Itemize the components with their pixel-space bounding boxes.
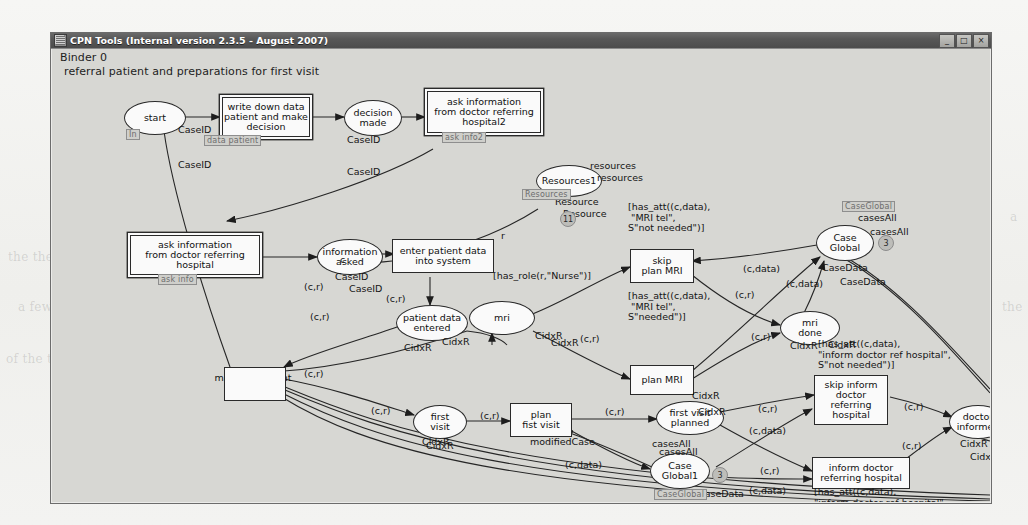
transition-label: ask information from doctor referring ho…	[145, 240, 245, 270]
place-mri[interactable]: mri	[469, 301, 535, 335]
place-label: patient data entered	[403, 313, 461, 332]
guard-skip-plan-mri: [has_att((c,data), "MRI tel", S"not need…	[628, 202, 710, 234]
arc-inscription: CaseData	[705, 501, 751, 502]
guard-plan-mri: [has_att((c,data), "MRI tel", S"needed")…	[628, 291, 710, 323]
place-label: Resources1	[542, 176, 597, 186]
place-label: Case Global1	[662, 461, 698, 480]
transition-label: ask information from doctor referring ho…	[434, 97, 534, 127]
place-label: mri done	[798, 318, 822, 337]
transition-inform-doctor[interactable]: inform doctor referring hospital	[812, 457, 910, 489]
transition-tag-data-patient[interactable]: data patient	[204, 135, 261, 146]
place-information-asked[interactable]: information asked	[317, 239, 383, 275]
place-label: first visit	[430, 412, 450, 431]
cpn-app-icon	[54, 34, 67, 47]
minimize-button[interactable]: _	[939, 34, 955, 48]
place-label: Case Global	[830, 233, 860, 252]
place-decision-made[interactable]: decision made	[344, 100, 402, 136]
arc-inscription: CaseID	[349, 284, 382, 295]
fusion-tag-resources[interactable]: Resources	[522, 189, 571, 200]
maximize-button[interactable]: □	[956, 34, 972, 48]
place-label: information asked	[323, 247, 378, 266]
arc-inscription: CaseID	[178, 160, 211, 171]
cpn-tools-window: CPN Tools (Internal version 2.3.5 - Augu…	[50, 32, 992, 504]
transition-write-down-data-patient[interactable]: write down data patient and make decisio…	[222, 97, 310, 137]
close-icon: ×	[974, 35, 988, 47]
arc-inscription: (c,data)	[565, 460, 602, 471]
guard-enter-patient-data: [has_role(r,"Nurse")]	[493, 271, 591, 282]
arc-inscription: (c,data)	[749, 426, 786, 437]
arc-inscription: (c,data)	[786, 279, 823, 290]
arc-inscription: (c,r)	[751, 332, 771, 343]
fusion-tag-case-global[interactable]: CaseGlobal	[842, 201, 895, 212]
place-type-mri-done: CidxR	[790, 341, 818, 352]
place-type-information-asked: CaseID	[335, 272, 368, 283]
transition-label: write down data patient and make decisio…	[224, 102, 308, 132]
place-first-visit[interactable]: first visit	[413, 405, 467, 439]
arc-inscription: CidxR	[404, 343, 432, 354]
place-case-global1[interactable]: Case Global1	[650, 453, 710, 489]
arc-inscription: (c,data)	[743, 264, 780, 275]
fusion-tag-case-global1[interactable]: CaseGlobal	[654, 489, 707, 500]
transition-label: inform doctor referring hospital	[820, 463, 902, 483]
arc-inscription: (c,r)	[758, 404, 778, 415]
arc-inscription: (c,r)	[735, 290, 755, 301]
transition-skip-plan-mri[interactable]: skip plan MRI	[630, 249, 694, 283]
arc-inscription: (c,r)	[310, 312, 330, 323]
arc-inscription: CaseID	[347, 167, 380, 178]
arc-inscription: resources	[597, 173, 643, 184]
arc-inscription: CidxR	[970, 452, 990, 463]
arc-inscription: CidxR	[551, 338, 579, 349]
scanned-page-background: the the anda few wordsof the toit is a a…	[0, 0, 1028, 525]
place-name-resources: resources	[590, 161, 636, 172]
place-name-case-global: casesAll	[858, 213, 897, 224]
window-title: CPN Tools (Internal version 2.3.5 - Augu…	[70, 35, 938, 46]
port-tag-in[interactable]: In	[126, 129, 140, 140]
transition-label: skip plan MRI	[641, 256, 682, 276]
arc-inscription: (c,r)	[605, 407, 625, 418]
arc-inscription: (c,r)	[371, 406, 391, 417]
marking-case-global[interactable]: 3	[878, 235, 894, 251]
maximize-icon: □	[957, 35, 971, 47]
transition-skip-inform-doctor[interactable]: skip inform doctor referring hospital	[814, 375, 888, 425]
guard-inform-doctor: [has_att((c,data), "inform doctor ref ho…	[814, 487, 947, 502]
transition-plan-fist-visit[interactable]: plan fist visit	[510, 403, 572, 437]
arc-inscription: casesAll	[659, 447, 698, 458]
place-type-decision-made: CaseID	[347, 135, 380, 146]
arc-inscription: c	[340, 255, 345, 266]
arc-inscription: (c,r)	[904, 402, 924, 413]
close-button[interactable]: ×	[973, 34, 989, 48]
arc-inscription: CidxR	[698, 407, 726, 418]
place-type-case-global: CaseData	[822, 263, 868, 274]
arc-inscription: (c,r)	[304, 369, 324, 380]
place-label: doctor informed	[957, 412, 990, 431]
place-type-doctor-informed: CidxR	[960, 439, 988, 450]
place-type-patient-data: CidxR	[442, 337, 470, 348]
place-label: mri	[494, 313, 510, 323]
marking-resources1[interactable]: 11	[560, 211, 576, 227]
petri-net-canvas[interactable]: Binder 0 referral patient and preparatio…	[52, 49, 990, 502]
arc-inscription: CaseData	[840, 277, 886, 288]
transition-tag-ask-info[interactable]: ask info	[158, 274, 197, 285]
arc-inscription: (c,data)	[749, 486, 786, 497]
minimize-icon: _	[940, 35, 954, 47]
arc-inscription: CidxR	[828, 340, 856, 351]
marking-case-global1[interactable]: 3	[712, 467, 728, 483]
transition-plan-mri[interactable]: plan MRI	[630, 365, 694, 395]
transition-label: plan fist visit	[522, 410, 559, 430]
transition-make-document-box[interactable]	[224, 367, 286, 401]
ghost-text: a	[1010, 210, 1017, 224]
transition-tag-ask-info2[interactable]: ask info2	[442, 132, 486, 143]
arc-inscription: (c,r)	[760, 466, 780, 477]
arc-inscription: (c,r)	[304, 282, 324, 293]
transition-ask-info2[interactable]: ask information from doctor referring ho…	[427, 91, 541, 133]
arc-inscription: r	[501, 231, 505, 242]
transition-ask-info[interactable]: ask information from doctor referring ho…	[130, 235, 260, 275]
arc-inscription: (c,r)	[580, 334, 600, 345]
window-titlebar[interactable]: CPN Tools (Internal version 2.3.5 - Augu…	[51, 33, 991, 49]
place-label: start	[144, 113, 166, 123]
arc-inscription: (c,r)	[902, 441, 922, 452]
arc-inscription: modifiedCase	[530, 437, 595, 448]
transition-enter-patient-data[interactable]: enter patient data into system	[392, 239, 494, 273]
place-case-global[interactable]: Case Global	[816, 225, 874, 261]
ghost-text: the	[1002, 300, 1023, 314]
